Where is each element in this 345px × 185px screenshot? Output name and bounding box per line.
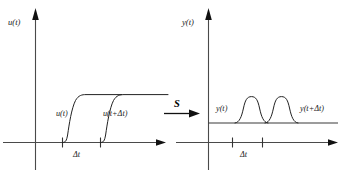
input-vertical-axis-label: u(t)	[8, 17, 21, 27]
input-curve-label-first: u(t)	[56, 109, 68, 118]
system-operator: S	[164, 98, 200, 118]
output-interval-label: Δt	[239, 150, 248, 159]
input-signal-curve-shifted	[101, 95, 169, 143]
input-interval-label: Δt	[72, 150, 81, 159]
input-curve-label-shifted: u(t+Δt)	[103, 109, 128, 118]
output-signal-curve-first	[235, 97, 268, 123]
operator-label: S	[174, 98, 180, 109]
figure-canvas: u(t) u(t) u(t+Δt) Δt S	[0, 0, 345, 185]
input-time-axis-arrowhead	[156, 139, 166, 146]
output-vertical-axis-label: y(t)	[181, 17, 194, 27]
input-vertical-axis-arrowhead	[32, 8, 39, 20]
time-invariance-figure: u(t) u(t) u(t+Δt) Δt S	[0, 0, 345, 185]
output-curve-label-shifted: y(t+Δt)	[299, 104, 324, 113]
output-time-axis-arrowhead	[328, 139, 338, 146]
output-vertical-axis-arrowhead	[205, 8, 212, 20]
operator-arrow-head	[189, 109, 200, 117]
output-panel: y(t) y(t) y(t+Δt) Δt	[176, 8, 338, 170]
output-curve-label-first: y(t)	[215, 104, 228, 113]
output-signal-curve-shifted	[265, 97, 298, 123]
input-panel: u(t) u(t) u(t+Δt) Δt	[3, 8, 168, 170]
